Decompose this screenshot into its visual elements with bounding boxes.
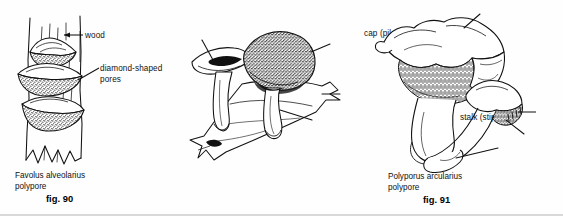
figure-panel-91: cap (pileus) pores wood stalk (stipe) Po…: [170, 0, 370, 216]
figure-number-90: fig. 90: [46, 193, 73, 204]
label-wood-90: wood: [85, 31, 105, 42]
polyporus-arcularius-illustration: [170, 0, 370, 216]
label-diamond-shaped-pores-90: diamond-shaped pores: [100, 64, 178, 85]
figure-panel-92: cap (pileus) teeth stalk (stipe) Dentinu…: [360, 0, 563, 216]
figure-panel-90: wood diamond-shaped pores Favolus alveol…: [0, 0, 190, 216]
caption-species-90: Favolus alveolarius: [15, 170, 85, 181]
figure-plate: wood diamond-shaped pores Favolus alveol…: [0, 0, 563, 216]
caption-type-90: polypore: [15, 181, 46, 192]
dentinum-repandum-illustration: [360, 0, 563, 216]
